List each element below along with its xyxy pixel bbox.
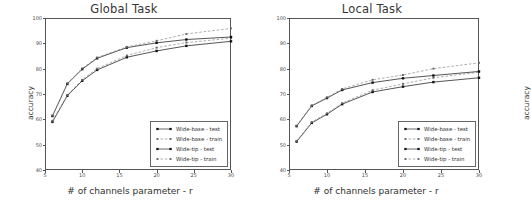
legend-line-swatch [402,154,422,164]
legend-item-label: Wide-tip - test [422,146,462,152]
series-marker [432,68,434,70]
series-marker [341,102,343,104]
series-line [52,37,231,116]
series-marker [372,89,374,91]
series-marker [230,40,232,42]
legend-line-swatch [154,124,174,134]
series-marker [81,79,83,81]
series-line [52,38,231,121]
series-marker [230,27,232,29]
legend-line-swatch [154,154,174,164]
legend-item: Wide-base - train [151,134,227,144]
series-line [297,71,479,126]
legend-line-swatch [154,144,174,154]
series-marker [156,40,158,42]
series-marker [402,85,404,87]
legend-item-label: Wide-base - train [174,136,222,142]
legend-item: Wide-base - train [399,134,475,144]
series-marker [478,77,480,79]
legend-item: Wide-tip - test [151,144,227,154]
legend-item: Wide-tip - test [399,144,475,154]
legend-item: Wide-base - test [151,124,227,134]
series-marker [81,67,83,69]
series-marker [402,83,404,85]
legend-line-swatch [402,144,422,154]
series-marker [296,140,298,142]
series-marker [185,38,187,40]
legend-line-swatch [154,134,174,144]
series-layer [248,0,496,205]
legend-item-label: Wide-base - train [422,136,470,142]
series-marker [185,45,187,47]
series-line [52,41,231,122]
panel-local-task: Local Task accuracy # of channels parame… [248,0,496,205]
series-marker [372,79,374,81]
series-marker [96,68,98,70]
series-marker [432,81,434,83]
legend-item-label: Wide-tip - test [174,146,214,152]
panel-global-task: Global Task accuracy # of channels param… [0,0,248,205]
series-marker [432,77,434,79]
series-marker [96,57,98,59]
series-marker [402,77,404,79]
series-marker [66,82,68,84]
series-marker [326,112,328,114]
legend-item-label: Wide-base - test [174,126,220,132]
series-marker [326,96,328,98]
series-marker [371,81,373,83]
series-marker [126,55,128,57]
legend-item-label: Wide-tip - train [174,156,216,162]
legend-item: Wide-base - test [399,124,475,134]
series-layer [0,0,248,205]
legend-line-swatch [402,124,422,134]
series-marker [66,94,68,96]
legend: Wide-base - testWide-base - trainWide-ti… [150,121,228,167]
series-marker [230,36,232,38]
series-marker [51,120,53,122]
series-marker [478,70,480,72]
legend-line-swatch [402,134,422,144]
legend-item-label: Wide-base - test [422,126,468,132]
legend-item: Wide-tip - train [151,154,227,164]
series-marker [341,88,343,90]
series-marker [155,50,157,52]
series-marker [156,47,158,49]
series-marker [296,125,298,127]
series-marker [311,121,313,123]
series-marker [51,115,53,117]
legend-item: Wide-tip - train [399,154,475,164]
series-marker [311,104,313,106]
legend: Wide-base - testWide-base - trainWide-ti… [398,121,476,167]
series-marker [478,62,480,64]
series-marker [402,74,404,76]
series-marker [155,42,157,44]
series-marker [185,42,187,44]
series-marker [185,33,187,35]
y-axis-label: accuracy [522,86,531,120]
series-marker [432,74,434,76]
series-marker [126,46,128,48]
legend-item-label: Wide-tip - train [422,156,464,162]
